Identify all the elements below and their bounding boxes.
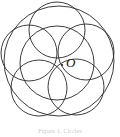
geometry-figure-container: O Figure 1. Circles [0, 0, 120, 137]
circle-rosette-drawing [0, 0, 120, 122]
central-circle [20, 26, 94, 100]
petal-circle-4 [11, 60, 67, 116]
figure-caption: Figure 1. Circles [0, 127, 120, 135]
center-point-dot [61, 64, 63, 66]
center-point-label: O [66, 56, 75, 69]
petal-circle-3 [48, 59, 104, 115]
petal-circle-2 [58, 24, 114, 80]
